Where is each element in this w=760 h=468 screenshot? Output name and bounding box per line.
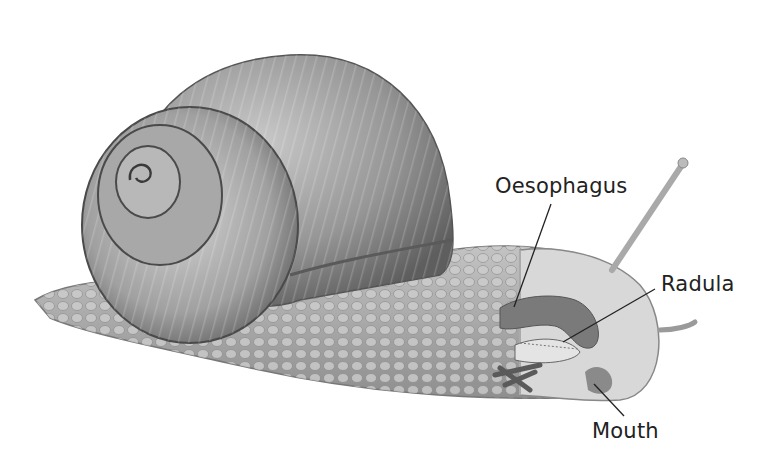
snail-diagram: Oesophagus Radula Mouth <box>0 0 760 468</box>
label-radula: Radula <box>661 272 735 296</box>
snail-illustration <box>0 0 760 468</box>
label-oesophagus: Oesophagus <box>495 174 627 198</box>
label-mouth: Mouth <box>592 419 659 443</box>
